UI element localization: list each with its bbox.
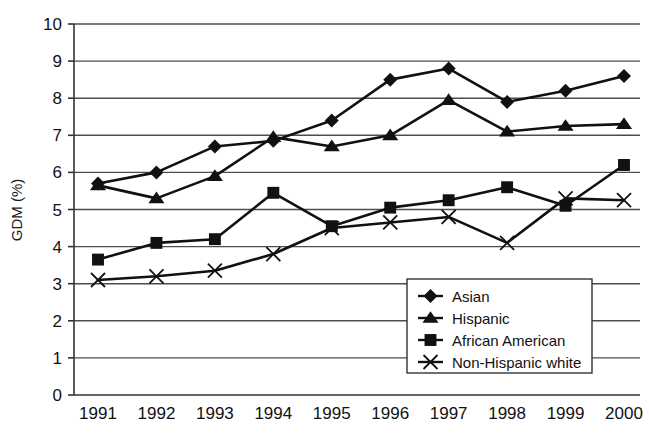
x-tick-label: 1995 [313,404,351,423]
y-tick-label: 1 [53,349,62,368]
marker-square [209,233,221,245]
y-axis-title: GDM (%) [8,179,25,242]
y-tick-label: 6 [53,163,62,182]
marker-square [501,181,513,193]
legend-label: African American [452,332,565,349]
x-tick-label: 1994 [254,404,292,423]
x-tick-label: 2000 [605,404,643,423]
marker-square [618,159,630,171]
marker-square [384,202,396,214]
x-tick-label: 1991 [79,404,117,423]
y-tick-label: 7 [53,126,62,145]
legend-label: Hispanic [452,310,510,327]
x-tick-label: 1997 [430,404,468,423]
chart-legend: AsianHispanicAfrican AmericanNon-Hispani… [407,279,592,373]
y-tick-label: 10 [43,15,62,34]
y-tick-label: 2 [53,312,62,331]
x-tick-label: 1998 [488,404,526,423]
y-tick-label: 4 [53,238,62,257]
y-tick-label: 3 [53,275,62,294]
y-tick-label: 0 [53,386,62,405]
y-tick-label: 9 [53,52,62,71]
marker-square [425,334,437,346]
marker-square [92,254,104,266]
x-tick-label: 1999 [547,404,585,423]
x-tick-label: 1992 [138,404,176,423]
marker-square [443,194,455,206]
chart-svg: 012345678910 199119921993199419951996199… [0,0,649,435]
x-tick-label: 1993 [196,404,234,423]
legend-label: Asian [452,288,490,305]
gdm-trend-chart: 012345678910 199119921993199419951996199… [0,0,649,435]
y-tick-label: 8 [53,89,62,108]
x-tick-label: 1996 [371,404,409,423]
legend-label: Non-Hispanic white [452,354,581,371]
marker-square [150,237,162,249]
y-tick-label: 5 [53,201,62,220]
marker-square [267,187,279,199]
